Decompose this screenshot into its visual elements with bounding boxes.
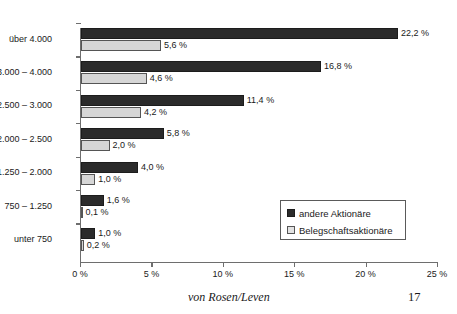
bar-andere-aktionaere <box>81 195 104 206</box>
legend-swatch-icon <box>287 226 295 234</box>
bar-belegschaftsaktionaere <box>81 73 147 84</box>
bar-value-label: 22,2 % <box>401 28 429 39</box>
bar-value-label: 4,6 % <box>150 73 173 84</box>
x-axis-tick-label: 10 % <box>213 269 234 279</box>
bar-belegschaftsaktionaere <box>81 207 83 218</box>
chart-title <box>80 0 437 3</box>
y-axis-category-label: 2.500 – 3.000 <box>0 100 52 110</box>
x-axis-tick <box>223 262 224 267</box>
bar-andere-aktionaere <box>81 228 95 239</box>
x-axis-tick <box>294 262 295 267</box>
y-axis-tick <box>76 90 81 91</box>
legend-item-label: Belegschaftsaktionäre <box>299 225 392 236</box>
bar-value-label: 0,1 % <box>86 207 109 218</box>
legend-item: andere Aktionäre <box>287 206 371 220</box>
y-axis-category-label: 3.000 – 4.000 <box>0 67 52 77</box>
y-axis-category-label: über 4.000 <box>9 34 52 44</box>
bar-belegschaftsaktionaere <box>81 107 141 118</box>
x-axis-tick-label: 0 % <box>72 269 88 279</box>
bar-andere-aktionaere <box>81 162 138 173</box>
footer-page-number: 17 <box>408 290 421 305</box>
y-axis-tick <box>76 23 81 24</box>
bar-value-label: 4,0 % <box>141 162 164 173</box>
bar-andere-aktionaere <box>81 61 321 72</box>
x-axis-tick <box>366 262 367 267</box>
bar-belegschaftsaktionaere <box>81 240 84 251</box>
x-axis-line <box>80 262 437 263</box>
footer-source-citation: von Rosen/Leven <box>188 290 270 305</box>
y-axis-tick <box>76 56 81 57</box>
y-axis-category-label: unter 750 <box>14 234 52 244</box>
y-axis-category-label: 2.000 – 2.500 <box>0 134 52 144</box>
bar-value-label: 16,8 % <box>324 61 352 72</box>
legend-item: Belegschaftsaktionäre <box>287 223 392 237</box>
bar-value-label: 1,0 % <box>98 228 121 239</box>
x-axis-tick <box>151 262 152 267</box>
bar-belegschaftsaktionaere <box>81 40 161 51</box>
chart-legend: andere AktionäreBelegschaftsaktionäre <box>280 200 406 240</box>
x-axis-tick-label: 15 % <box>284 269 305 279</box>
x-axis-tick-label: 25 % <box>427 269 448 279</box>
bar-belegschaftsaktionaere <box>81 140 110 151</box>
y-axis-category-label: 750 – 1.250 <box>4 201 52 211</box>
x-axis-tick-label: 5 % <box>144 269 160 279</box>
bar-value-label: 1,0 % <box>98 174 121 185</box>
bar-belegschaftsaktionaere <box>81 174 95 185</box>
bar-value-label: 5,8 % <box>167 128 190 139</box>
x-axis-tick <box>80 262 81 267</box>
y-axis-category-label: 1.250 – 2.000 <box>0 167 52 177</box>
legend-item-label: andere Aktionäre <box>299 208 371 219</box>
bar-value-label: 0,2 % <box>87 240 110 251</box>
y-axis-tick <box>76 157 81 158</box>
x-axis-tick-label: 20 % <box>355 269 376 279</box>
bar-andere-aktionaere <box>81 28 398 39</box>
bar-value-label: 4,2 % <box>144 107 167 118</box>
bar-value-label: 11,4 % <box>247 95 274 106</box>
x-axis-tick <box>437 262 438 267</box>
y-axis-tick <box>76 190 81 191</box>
legend-swatch-icon <box>287 209 295 217</box>
bar-value-label: 2,0 % <box>113 140 136 151</box>
bar-andere-aktionaere <box>81 128 164 139</box>
y-axis-tick <box>76 223 81 224</box>
bar-value-label: 5,6 % <box>164 40 187 51</box>
chart-page: 0 %5 %10 %15 %20 %25 % über 4.0003.000 –… <box>0 0 457 314</box>
bar-andere-aktionaere <box>81 95 244 106</box>
y-axis-tick <box>76 123 81 124</box>
bar-value-label: 1,6 % <box>107 195 130 206</box>
